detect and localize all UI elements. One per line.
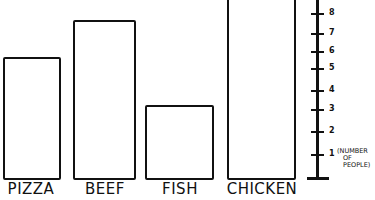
tick-label-4: 4 xyxy=(329,85,335,94)
tick-label-2: 2 xyxy=(329,126,335,135)
tick-8 xyxy=(311,13,324,15)
tick-label-8: 8 xyxy=(329,8,335,17)
bar-pizza xyxy=(3,57,61,180)
tick-label-6: 6 xyxy=(329,46,335,55)
tick-5 xyxy=(311,68,324,70)
bar-beef xyxy=(73,20,136,180)
category-label-pizza: PIZZA xyxy=(0,180,62,198)
tick-3 xyxy=(311,109,324,111)
tick-label-3: 3 xyxy=(329,104,335,113)
tick-2 xyxy=(311,131,324,133)
category-label-fish: FISH xyxy=(146,180,214,198)
bar-fish xyxy=(145,105,214,180)
y-axis-label-line-3: PEOPLE) xyxy=(337,162,370,169)
tick-label-7: 7 xyxy=(329,28,335,37)
y-axis-label: (NUMBER OF PEOPLE) xyxy=(337,148,370,169)
category-label-beef: BEEF xyxy=(72,180,138,198)
tick-7 xyxy=(311,33,324,35)
y-axis-base xyxy=(307,177,329,180)
y-axis-label-line-1: (NUMBER xyxy=(337,148,370,155)
bar-chicken xyxy=(227,0,296,180)
tick-4 xyxy=(311,90,324,92)
tick-1 xyxy=(311,154,324,156)
tick-6 xyxy=(311,51,324,53)
tick-label-5: 5 xyxy=(329,63,335,72)
tick-label-1: 1 xyxy=(329,149,335,158)
category-label-chicken: CHICKEN xyxy=(222,180,302,198)
